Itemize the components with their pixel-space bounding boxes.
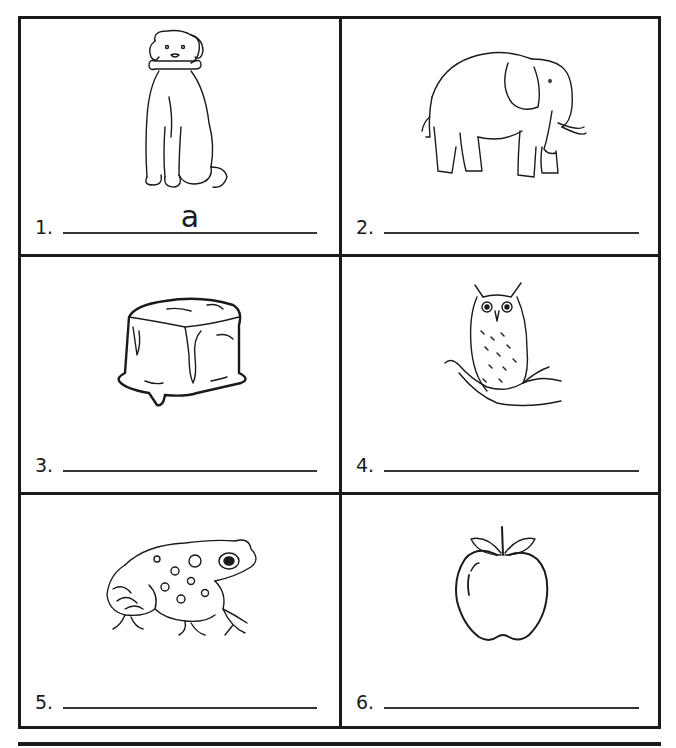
item-number: 1.: [35, 216, 53, 238]
item-number: 3.: [35, 454, 53, 476]
owl-icon: [437, 275, 567, 415]
answer-row-3: 3.: [21, 444, 339, 478]
item-number: 2.: [356, 216, 374, 238]
answer-row-6: 6.: [342, 681, 661, 715]
worksheet-cell-4: 4.: [342, 257, 661, 492]
answer-row-1: 1. a: [21, 206, 339, 240]
answer-row-5: 5.: [21, 681, 339, 715]
worksheet-cell-6: 6.: [342, 495, 661, 729]
answer-line-4[interactable]: [384, 470, 639, 472]
answer-line-5[interactable]: [63, 707, 317, 709]
worksheet-cell-1: 1. a: [21, 19, 339, 254]
worksheet-grid: 1. a 2.: [18, 16, 661, 729]
frog-icon: [95, 519, 265, 639]
worksheet-cell-3: 3.: [21, 257, 339, 492]
bottom-separator-line: [18, 742, 661, 746]
worksheet-cell-2: 2.: [342, 19, 661, 254]
item-number: 6.: [356, 691, 374, 713]
worksheet-cell-5: 5.: [21, 495, 339, 729]
apple-icon: [447, 519, 557, 649]
answer-line-3[interactable]: [63, 470, 317, 472]
answer-row-2: 2.: [342, 206, 661, 240]
dog-icon: [125, 27, 235, 192]
answer-row-4: 4.: [342, 444, 661, 478]
elephant-icon: [412, 37, 592, 187]
answer-text-1[interactable]: a: [63, 202, 317, 232]
item-number: 4.: [356, 454, 374, 476]
ice-cube-icon: [105, 285, 255, 410]
answer-line-6[interactable]: [384, 707, 639, 709]
item-number: 5.: [35, 691, 53, 713]
answer-line-2[interactable]: [384, 232, 639, 234]
